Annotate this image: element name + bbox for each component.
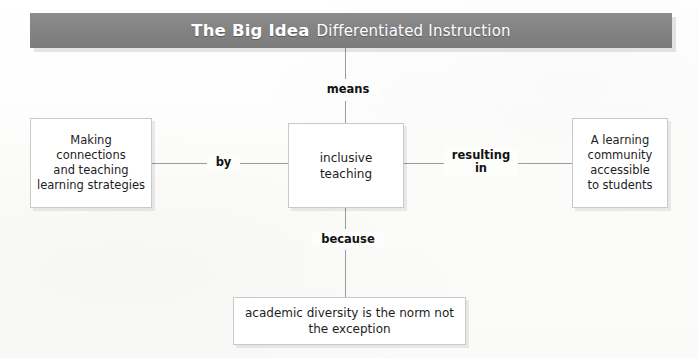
connector-center-to-because bbox=[345, 208, 346, 229]
connector-left-to-by bbox=[152, 163, 207, 164]
big-idea-banner: The Big IdeaDifferentiated Instruction bbox=[30, 13, 672, 48]
node-making-connections: Making connections and teaching learning… bbox=[30, 118, 152, 208]
node-inclusive-teaching: inclusive teaching bbox=[288, 123, 404, 208]
banner-title-strong: The Big Idea bbox=[191, 21, 309, 40]
connector-means-to-center bbox=[345, 101, 346, 123]
connector-center-to-resulting bbox=[404, 163, 444, 164]
concept-map-diagram: The Big IdeaDifferentiated Instruction m… bbox=[0, 0, 698, 358]
node-left-label: Making connections and teaching learning… bbox=[32, 133, 150, 193]
banner-title-light: Differentiated Instruction bbox=[317, 22, 511, 40]
edge-label-resulting-in: resulting in bbox=[444, 148, 518, 176]
node-right-label: A learning community accessible to stude… bbox=[582, 133, 657, 193]
connector-resulting-to-right bbox=[512, 163, 572, 164]
connector-because-to-bottom bbox=[345, 250, 346, 297]
node-learning-community: A learning community accessible to stude… bbox=[572, 118, 668, 208]
banner-text-group: The Big IdeaDifferentiated Instruction bbox=[191, 21, 511, 40]
connector-by-to-center bbox=[234, 163, 288, 164]
edge-label-by: by bbox=[207, 155, 240, 170]
edge-label-means: means bbox=[317, 82, 379, 97]
node-academic-diversity: academic diversity is the norm not the e… bbox=[233, 297, 466, 345]
node-center-label: inclusive teaching bbox=[315, 150, 378, 182]
node-bottom-label: academic diversity is the norm not the e… bbox=[240, 305, 459, 337]
connector-banner-to-means bbox=[345, 48, 346, 79]
edge-label-because: because bbox=[312, 232, 384, 247]
